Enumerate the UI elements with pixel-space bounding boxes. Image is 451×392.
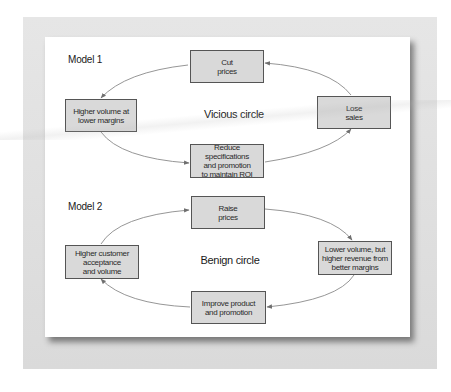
box-cut-prices: Cut prices (190, 50, 264, 83)
vicious-circle-label: Vicious circle (174, 108, 294, 120)
model-1-title: Model 1 (68, 54, 102, 65)
box-reduce-specifications: Reduce specifications and promotion to m… (190, 144, 264, 178)
arrow-lower-volume-to-improve (267, 275, 354, 307)
box-improve-product-promotion: Improve product and promotion (191, 291, 266, 324)
arrow-cut-to-higher-volume (101, 65, 188, 98)
box-higher-volume-lower-margins: Higher volume at lower margins (65, 99, 137, 132)
arrow-reduce-to-lose-sales (265, 129, 351, 162)
arrow-lose-sales-to-cut (265, 63, 351, 95)
box-lower-volume-higher-revenue: Lower volume, but higher revenue from be… (318, 241, 392, 275)
box-higher-customer-acceptance: Higher customer acceptance and volume (65, 245, 139, 279)
arrow-improve-to-higher-customer (101, 279, 190, 307)
arrow-higher-volume-to-reduce (101, 132, 189, 163)
box-raise-prices: Raise prices (191, 196, 265, 229)
arrow-raise-to-lower-volume (265, 209, 352, 240)
model-2-title: Model 2 (68, 201, 102, 212)
arrow-higher-customer-to-raise (101, 210, 189, 244)
benign-circle-label: Benign circle (170, 254, 290, 266)
box-lose-sales: Lose sales (317, 96, 391, 129)
